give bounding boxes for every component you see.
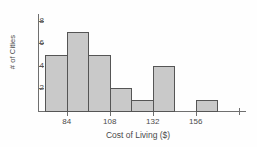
y-tick-label-wrap: 8	[22, 17, 44, 25]
y-tick-label: 8	[32, 17, 44, 25]
x-tick-mark	[67, 112, 68, 116]
x-tick-mark	[153, 112, 154, 116]
histogram-bar	[45, 55, 68, 112]
x-tick-label: 132	[138, 117, 168, 126]
plot-area: 8642 84108132156 # of Cities Cost of Liv…	[0, 0, 257, 147]
histogram-figure: 8642 84108132156 # of Cities Cost of Liv…	[0, 0, 257, 147]
y-tick-label: 2	[32, 84, 44, 92]
y-axis-label: # of Cities	[9, 22, 17, 82]
y-tick-label: 4	[32, 62, 44, 70]
x-tick-label: 108	[95, 117, 125, 126]
x-tick-label: 84	[52, 117, 82, 126]
histogram-bar	[67, 32, 90, 112]
x-tick-mark	[196, 112, 197, 116]
histogram-bar	[153, 66, 176, 112]
histogram-bar	[88, 55, 111, 112]
y-tick-label-wrap: 2	[22, 84, 44, 92]
y-tick-label: 6	[32, 39, 44, 47]
x-axis-label: Cost of Living ($)	[68, 130, 208, 140]
y-tick-label-wrap: 4	[22, 62, 44, 70]
histogram-bar	[196, 100, 219, 112]
histogram-bar	[131, 100, 154, 112]
x-tick-label: 156	[181, 117, 211, 126]
x-minor-tick-mark	[239, 108, 240, 115]
histogram-bar	[110, 88, 133, 112]
x-tick-mark	[110, 112, 111, 116]
y-tick-label-wrap: 6	[22, 39, 44, 47]
